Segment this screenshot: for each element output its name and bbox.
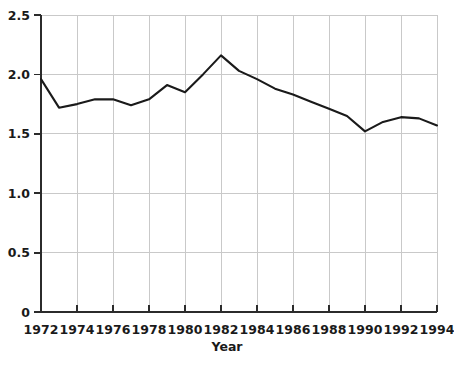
x-tick-label: 1982: [204, 322, 239, 337]
x-tick-label: 1986: [276, 322, 311, 337]
x-tick-label: 1972: [24, 322, 59, 337]
line-chart: 00.51.01.52.02.5 19721974197619781980198…: [0, 0, 454, 365]
x-tick-label: 1976: [96, 322, 131, 337]
x-axis-title: Year: [211, 339, 244, 354]
y-tick-label: 1.5: [8, 126, 30, 141]
x-tick-label: 1974: [60, 322, 95, 337]
x-tick-label: 1988: [312, 322, 347, 337]
chart-background: [0, 0, 454, 365]
y-tick-label: 1.0: [8, 186, 30, 201]
x-tick-label: 1994: [420, 322, 454, 337]
x-tick-label: 1990: [348, 322, 383, 337]
x-tick-label: 1978: [132, 322, 167, 337]
x-axis-tick-labels: 1972197419761978198019821984198619881990…: [24, 322, 454, 337]
y-tick-label: 2.0: [8, 67, 30, 82]
x-tick-label: 1980: [168, 322, 203, 337]
y-tick-label: 0: [21, 305, 30, 320]
chart-container: 00.51.01.52.02.5 19721974197619781980198…: [0, 0, 454, 365]
x-tick-label: 1984: [240, 322, 275, 337]
x-tick-label: 1992: [384, 322, 419, 337]
y-tick-label: 2.5: [8, 8, 30, 23]
y-tick-label: 0.5: [8, 245, 30, 260]
